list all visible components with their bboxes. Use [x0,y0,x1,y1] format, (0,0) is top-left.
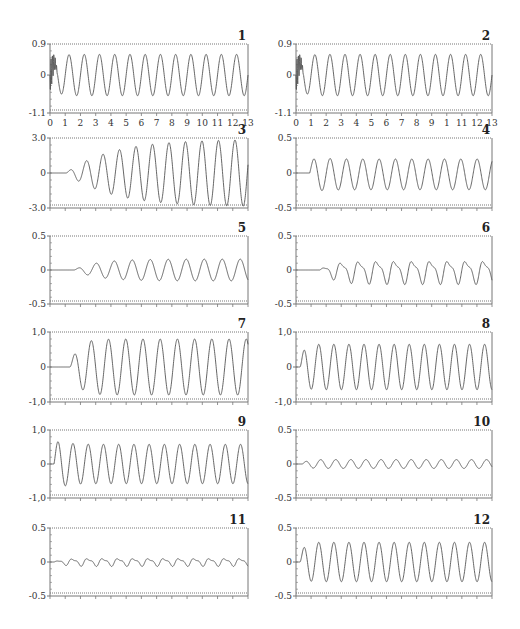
panel-number-label: 9 [216,415,246,429]
chart-plot-1 [0,0,520,629]
y-tick-label: 0 [262,265,292,275]
y-tick-label: 0.5 [262,425,292,435]
y-tick-label: 0 [16,459,46,469]
y-tick-label: 0 [16,265,46,275]
y-tick-label: -0.5 [262,299,292,309]
chart-plot-7 [0,0,520,629]
chart-plot-10 [0,0,520,629]
panel-number-label: 11 [216,513,246,527]
y-tick-label: -1,0 [16,397,46,407]
y-tick-label: -1.1 [16,108,46,118]
panel-number-label: 1 [216,29,246,43]
y-tick-label: 1,0 [16,425,46,435]
y-tick-label: 0.5 [16,231,46,241]
chart-plot-6 [0,0,520,629]
y-tick-label: -3.0 [16,203,46,213]
chart-plot-3 [0,0,520,629]
y-tick-label: -0.5 [262,203,292,213]
y-tick-label: -1.1 [262,108,292,118]
y-tick-label: 0.5 [262,231,292,241]
y-tick-label: 3.0 [16,133,46,143]
y-tick-label: 0 [262,557,292,567]
chart-plot-11 [0,0,520,629]
panel-number-label: 10 [460,415,490,429]
y-tick-label: -0.5 [262,591,292,601]
y-tick-label: 0.5 [16,523,46,533]
chart-plot-2 [0,0,520,629]
panel-number-label: 4 [460,123,490,137]
y-tick-label: -0.5 [16,299,46,309]
chart-plot-12 [0,0,520,629]
panel-number-label: 12 [460,513,490,527]
y-tick-label: 0.9 [262,39,292,49]
y-tick-label: 1,0 [262,327,292,337]
y-tick-label: 0 [262,168,292,178]
panel-number-label: 3 [216,123,246,137]
chart-plot-8 [0,0,520,629]
y-tick-label: -1,0 [262,397,292,407]
panel-number-label: 6 [460,221,490,235]
y-tick-label: 0.5 [262,523,292,533]
chart-plot-5 [0,0,520,629]
y-tick-label: 0 [262,459,292,469]
panel-number-label: 8 [460,317,490,331]
y-tick-label: 0 [16,362,46,372]
y-tick-label: 0 [262,362,292,372]
y-tick-label: 1,0 [16,327,46,337]
y-tick-label: 0 [16,168,46,178]
panel-number-label: 2 [460,29,490,43]
panel-number-label: 7 [216,317,246,331]
y-tick-label: 0.9 [16,39,46,49]
y-tick-label: 0.5 [262,133,292,143]
y-tick-label: 0 [16,557,46,567]
y-tick-label: -0.5 [262,493,292,503]
y-tick-label: -1,0 [16,493,46,503]
chart-plot-9 [0,0,520,629]
chart-plot-4 [0,0,520,629]
y-tick-label: 0 [262,70,292,80]
y-tick-label: -0.5 [16,591,46,601]
panel-number-label: 5 [216,221,246,235]
y-tick-label: 0 [16,70,46,80]
